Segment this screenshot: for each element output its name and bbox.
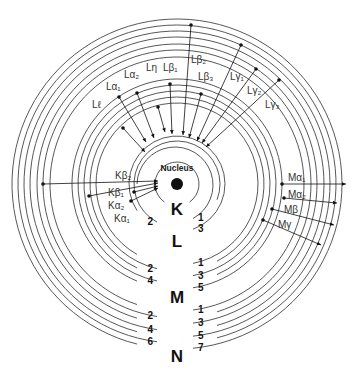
subshell-label-L3: 3 — [198, 223, 204, 234]
shell-labels: K123L12345M1234567N — [147, 200, 204, 366]
origin-dot-icon — [87, 194, 91, 198]
arrowhead-icon — [342, 182, 346, 186]
subshell-label-N6: 6 — [147, 336, 153, 347]
line-label: Lβ₃ — [198, 71, 213, 82]
line-label: Mγ — [278, 219, 291, 230]
origin-dot-icon — [239, 43, 243, 47]
subshell-label-N4: 4 — [147, 324, 153, 335]
origin-dot-icon — [189, 23, 193, 27]
origin-dot-icon — [121, 126, 125, 130]
origin-dot-icon — [41, 182, 45, 186]
line-label: Lγ₁ — [230, 71, 245, 82]
line-label: Mβ — [284, 204, 298, 215]
shell-label-L: L — [172, 232, 182, 251]
shell-label-M: M — [170, 288, 184, 307]
subshell-label-N7: 7 — [198, 342, 204, 353]
arrowhead-icon — [170, 130, 174, 134]
subshell-label-M1: 1 — [198, 257, 204, 268]
line-label: Lℓ — [92, 99, 102, 110]
subshell-label-M2: 2 — [147, 263, 153, 274]
origin-dot-icon — [280, 182, 284, 186]
origin-dot-icon — [135, 91, 139, 95]
arrowhead-icon — [202, 139, 206, 143]
origin-dot-icon — [168, 82, 172, 86]
origin-dot-icon — [261, 218, 265, 222]
arrowhead-icon — [151, 134, 154, 138]
origin-dot-icon — [254, 67, 258, 71]
subshell-label-N5: 5 — [198, 330, 204, 341]
subshell-label-N1: 1 — [198, 304, 204, 315]
subshell-label-M5: 5 — [198, 282, 204, 293]
nucleus-icon — [171, 178, 183, 190]
transition-line — [43, 181, 158, 184]
line-label: Lη — [146, 62, 157, 73]
origin-dot-icon — [199, 92, 203, 96]
line-label: Kβ₂ — [115, 170, 131, 181]
transition-line — [189, 94, 201, 138]
line-label: Kα₁ — [114, 213, 130, 224]
line-label: Lβ₂ — [191, 54, 206, 65]
line-label: Lα₂ — [124, 69, 139, 80]
transition-line — [123, 128, 145, 152]
arrowhead-icon — [154, 182, 158, 186]
line-label: Kα₂ — [108, 200, 124, 211]
origin-dot-icon — [117, 95, 121, 99]
origin-dot-icon — [132, 190, 136, 194]
subshell-label-M4: 4 — [147, 275, 153, 286]
shell-label-K: K — [171, 200, 184, 219]
subshell-label-N3: 3 — [198, 317, 204, 328]
nucleus-label: Nucleus — [160, 163, 193, 173]
origin-dot-icon — [277, 78, 281, 82]
arrowhead-icon — [181, 131, 185, 135]
line-label: Kβ₁ — [108, 187, 124, 198]
line-label: Lγ₃ — [265, 99, 280, 110]
line-label: Mα₂ — [288, 189, 306, 200]
shell-diagram: LℓLα₁Lα₂LηLβ₁Lβ₂Lβ₃Lγ₁Lγ₂Lγ₃Kβ₂Kβ₁Kα₂Kα₁… — [0, 0, 358, 371]
origin-dot-icon — [156, 105, 160, 109]
transition-line — [263, 220, 321, 245]
line-label: Lα₁ — [106, 81, 121, 92]
origin-dot-icon — [282, 196, 286, 200]
subshell-label-M3: 3 — [198, 270, 204, 281]
line-label: Mα₁ — [288, 172, 306, 183]
subshell-label-L1: 1 — [198, 212, 204, 223]
subshell-label-N2: 2 — [147, 310, 153, 321]
origin-dot-icon — [129, 199, 133, 203]
subshell-label-L2: 2 — [147, 216, 153, 227]
line-label: Lγ₂ — [247, 85, 262, 96]
transition-line — [119, 97, 146, 142]
line-label: Lβ₁ — [163, 62, 178, 73]
shell-label-N: N — [171, 347, 183, 366]
origin-dot-icon — [270, 207, 274, 211]
